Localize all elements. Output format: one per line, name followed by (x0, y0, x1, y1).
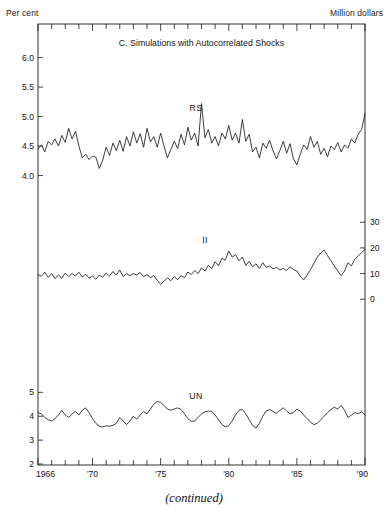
y-tick-label-un: 4 (29, 411, 34, 421)
y-tick-label-rs: 6.0 (22, 53, 34, 63)
y-tick-label-rs: 4.0 (22, 171, 34, 181)
chart-title: C. Simulations with Autocorrelated Shock… (119, 38, 285, 48)
x-tick-label: '70 (87, 469, 98, 479)
y-tick-label-un: 5 (29, 387, 34, 397)
y-tick-label-rs: 5.0 (22, 112, 34, 122)
time-series-chart: 4.04.55.05.56.001020302345RSIIUNC. Simul… (0, 0, 388, 490)
series-line-un (38, 401, 365, 428)
x-tick-label: '75 (155, 469, 166, 479)
x-tick-label: '90 (357, 469, 368, 479)
left-axis-unit-label: Per cent (6, 8, 38, 18)
y-tick-label-un: 3 (29, 435, 34, 445)
y-tick-label-un: 2 (29, 459, 34, 469)
x-tick-label: 1966 (36, 469, 55, 479)
figure-caption: (continued) (0, 491, 388, 506)
y-tick-label-ii: 0 (370, 294, 375, 304)
series-line-rs (38, 104, 365, 169)
series-line-ii (38, 249, 365, 284)
series-label-un: UN (189, 391, 202, 401)
right-axis-unit-label: Million dollars (330, 8, 383, 18)
x-tick-label: '80 (223, 469, 234, 479)
y-tick-label-rs: 5.5 (22, 82, 34, 92)
figure-panel-c: Per cent Million dollars 4.04.55.05.56.0… (0, 0, 388, 517)
series-label-ii: II (202, 235, 208, 245)
y-tick-label-ii: 20 (370, 243, 380, 253)
series-label-rs: RS (190, 103, 203, 113)
x-tick-label: '85 (291, 469, 302, 479)
y-tick-label-ii: 30 (370, 217, 380, 227)
y-tick-label-ii: 10 (370, 269, 380, 279)
y-tick-label-rs: 4.5 (22, 141, 34, 151)
